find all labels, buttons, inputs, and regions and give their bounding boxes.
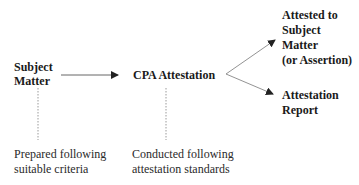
attested-line-4: (or Assertion) bbox=[282, 53, 352, 68]
cpa-note-line-2: attestation standards bbox=[132, 162, 234, 177]
cpa-note-line-1: Conducted following bbox=[132, 147, 234, 162]
attested-line-3: Matter bbox=[282, 38, 352, 53]
attested-line-1: Attested to bbox=[282, 8, 352, 23]
cpa-attestation-label: CPA Attestation bbox=[133, 68, 215, 82]
subject-note-line-1: Prepared following bbox=[14, 147, 106, 162]
report-line-2: Report bbox=[282, 103, 339, 118]
node-subject-matter: Subject Matter bbox=[14, 60, 53, 88]
arrow-cpa-to-report bbox=[226, 74, 273, 94]
note-cpa-attestation: Conducted following attestation standard… bbox=[132, 147, 234, 177]
node-cpa-attestation: CPA Attestation bbox=[133, 68, 215, 82]
subject-note-line-2: suitable criteria bbox=[14, 162, 106, 177]
report-line-1: Attestation bbox=[282, 88, 339, 103]
arrow-cpa-to-attested bbox=[226, 40, 275, 74]
subject-matter-line-1: Subject bbox=[14, 60, 53, 74]
note-subject-matter: Prepared following suitable criteria bbox=[14, 147, 106, 177]
subject-matter-line-2: Matter bbox=[14, 74, 53, 88]
attested-line-2: Subject bbox=[282, 23, 352, 38]
node-attested-to-subject-matter: Attested to Subject Matter (or Assertion… bbox=[282, 8, 352, 68]
node-attestation-report: Attestation Report bbox=[282, 88, 339, 118]
